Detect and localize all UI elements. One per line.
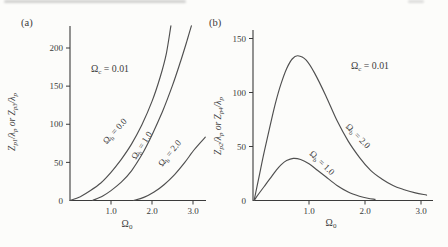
curve-label-omega-b-2.0: Ωb = 2.0 bbox=[343, 121, 373, 151]
y-tick-label: 50 bbox=[237, 142, 247, 152]
x-tick-label: 3.0 bbox=[187, 206, 199, 216]
figure-canvas: (a) (b) 0501001502001.02.03.0Ω0Zp1/λp or… bbox=[0, 0, 448, 247]
y-axis-title: Zp1/λp or Zp3/λp bbox=[7, 93, 18, 151]
panel-a-label: (a) bbox=[21, 17, 33, 29]
x-tick-label: 3.0 bbox=[415, 206, 427, 216]
x-axis-title: Ω0 bbox=[326, 217, 337, 230]
curve-label-omega-b-0.0: Ωb = 0.0 bbox=[101, 116, 130, 147]
plot-a: 0501001502001.02.03.0Ω0Zp1/λp or Zp3/λpΩ… bbox=[7, 26, 206, 231]
curve-omega-b-0.0 bbox=[70, 26, 171, 201]
x-tick-label: 2.0 bbox=[146, 206, 158, 216]
omega-c-annotation: Ωc = 0.01 bbox=[351, 60, 389, 73]
y-axis-title: Zp2/λp or Zp4/λp bbox=[213, 97, 224, 155]
y-tick-label: 0 bbox=[59, 196, 64, 206]
panel-b-label: (b) bbox=[209, 17, 222, 29]
y-tick-label: 200 bbox=[50, 43, 64, 53]
plot-b: 0501001501.02.03.0Ω0Zp2/λp or Zp4/λpΩc =… bbox=[213, 30, 433, 230]
y-tick-label: 100 bbox=[50, 119, 64, 129]
y-tick-label: 0 bbox=[242, 196, 247, 206]
curve-omega-b-2.0 bbox=[254, 56, 427, 201]
x-tick-label: 1.0 bbox=[303, 206, 315, 216]
x-axis-title: Ω0 bbox=[122, 218, 133, 231]
curve-label-omega-b-2.0: Ωb = 2.0 bbox=[156, 138, 184, 169]
curve-omega-b-1.0 bbox=[93, 26, 192, 201]
y-tick-label: 50 bbox=[54, 158, 64, 168]
axes bbox=[70, 26, 206, 201]
y-tick-label: 150 bbox=[50, 81, 64, 91]
curve-omega-b-1.0 bbox=[254, 158, 375, 200]
y-tick-label: 100 bbox=[233, 88, 247, 98]
y-tick-label: 150 bbox=[233, 34, 247, 44]
omega-c-annotation: Ωc = 0.01 bbox=[91, 63, 129, 76]
x-tick-label: 2.0 bbox=[359, 206, 371, 216]
figure-page: (a) (b) 0501001502001.02.03.0Ω0Zp1/λp or… bbox=[0, 0, 448, 247]
axes bbox=[253, 30, 433, 201]
x-tick-label: 1.0 bbox=[105, 206, 117, 216]
curve-label-omega-b-1.0: Ωb = 1.0 bbox=[129, 129, 155, 161]
